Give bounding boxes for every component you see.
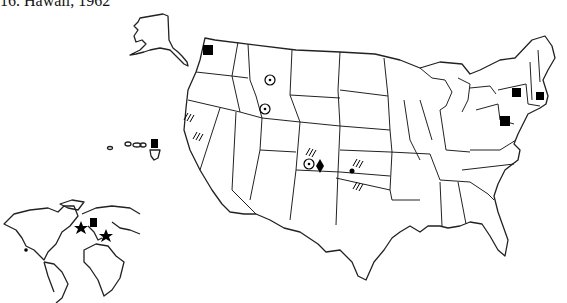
alaska-outline xyxy=(130,14,188,66)
markers xyxy=(24,45,544,252)
marker-square-pennsylvania xyxy=(500,116,510,126)
marker-square-massachusetts xyxy=(536,92,544,100)
state-borders xyxy=(188,42,540,226)
map-canvas xyxy=(0,0,567,303)
great-lakes xyxy=(420,68,496,112)
marker-hatch-colorado xyxy=(306,148,316,157)
marker-circle-dot-colorado xyxy=(304,159,314,169)
marker-star-british-isles xyxy=(74,221,88,234)
marker-square-washington xyxy=(203,45,213,55)
usa-outline xyxy=(184,36,555,280)
marker-circle-dot-idaho xyxy=(260,104,270,114)
marker-square-scandinavia xyxy=(90,218,97,227)
marker-dot-mexico xyxy=(24,248,28,252)
marker-square-new-york xyxy=(512,88,521,97)
world-inset xyxy=(4,200,140,303)
marker-hatch-kansas xyxy=(353,159,363,168)
marker-square-hawaii xyxy=(151,139,158,148)
marker-dot-kansas xyxy=(350,169,355,174)
marker-star-eastern-europe xyxy=(99,229,113,242)
marker-circle-dot-montana xyxy=(265,75,275,85)
marker-hatch-california-south xyxy=(193,132,203,141)
